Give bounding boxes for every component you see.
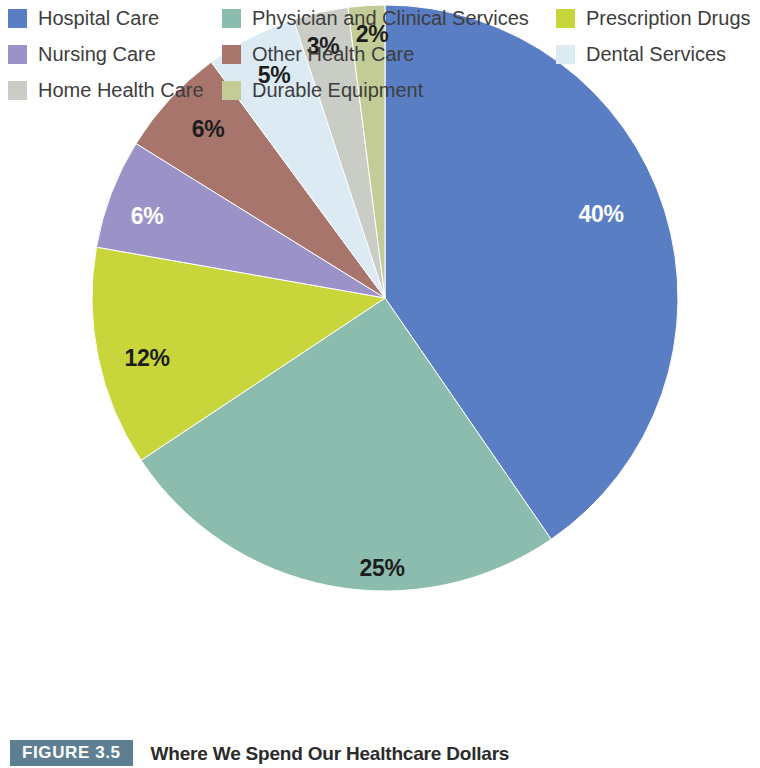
- legend-item[interactable]: Other Health Care: [222, 36, 556, 72]
- legend-color-swatch: [556, 9, 575, 28]
- legend-item[interactable]: Dental Services: [556, 36, 760, 72]
- pie-slice-value-label: 25%: [359, 555, 404, 581]
- figure-number-badge: FIGURE 3.5: [10, 740, 133, 766]
- legend-color-swatch: [8, 45, 27, 64]
- legend-column-2: Physician and Clinical ServicesOther Hea…: [222, 0, 556, 108]
- legend-color-swatch: [222, 9, 241, 28]
- legend-item[interactable]: Prescription Drugs: [556, 0, 760, 36]
- legend-color-swatch: [222, 81, 241, 100]
- legend-item[interactable]: Nursing Care: [8, 36, 222, 72]
- legend-column-1: Hospital CareNursing CareHome Health Car…: [8, 0, 222, 108]
- legend-item[interactable]: Home Health Care: [8, 72, 222, 108]
- legend-color-swatch: [8, 9, 27, 28]
- legend-color-swatch: [556, 45, 575, 64]
- legend-item-label: Nursing Care: [38, 44, 156, 64]
- chart-legend: Hospital CareNursing CareHome Health Car…: [0, 0, 760, 106]
- legend-column-3: Prescription DrugsDental Services: [556, 0, 760, 72]
- legend-color-swatch: [222, 45, 241, 64]
- legend-item-label: Home Health Care: [38, 80, 204, 100]
- figure-title: Where We Spend Our Healthcare Dollars: [151, 744, 510, 763]
- legend-color-swatch: [8, 81, 27, 100]
- legend-item-label: Durable Equipment: [252, 80, 423, 100]
- figure-caption: FIGURE 3.5 Where We Spend Our Healthcare…: [0, 738, 760, 768]
- legend-item[interactable]: Physician and Clinical Services: [222, 0, 556, 36]
- legend-item[interactable]: Hospital Care: [8, 0, 222, 36]
- legend-item-label: Other Health Care: [252, 44, 414, 64]
- pie-slice-value-label: 6%: [192, 116, 225, 142]
- legend-item-label: Prescription Drugs: [586, 8, 751, 28]
- pie-slice-value-label: 40%: [578, 201, 623, 227]
- legend-item[interactable]: Durable Equipment: [222, 72, 556, 108]
- pie-slice-value-label: 6%: [131, 203, 164, 229]
- legend-item-label: Dental Services: [586, 44, 726, 64]
- legend-item-label: Physician and Clinical Services: [252, 8, 529, 28]
- legend-item-label: Hospital Care: [38, 8, 159, 28]
- pie-slice-value-label: 12%: [124, 345, 169, 371]
